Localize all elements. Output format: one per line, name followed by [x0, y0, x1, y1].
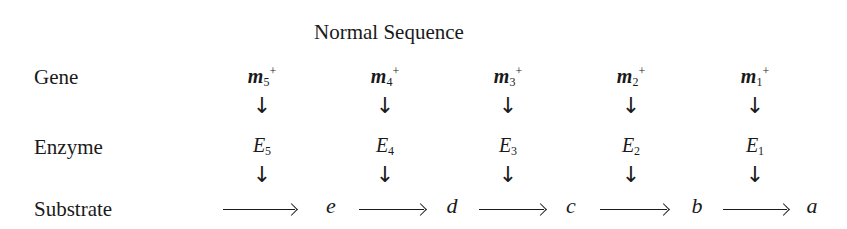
right-arrow-icon	[600, 209, 667, 210]
gene-m2: m2+	[617, 64, 645, 90]
diagram-title: Normal Sequence	[314, 20, 464, 45]
down-arrow-icon: ↓	[622, 164, 640, 186]
gene-m3: m3+	[494, 64, 522, 90]
substrate-c: c	[566, 193, 576, 219]
right-arrow-icon	[223, 209, 295, 210]
right-arrow-icon	[479, 209, 544, 210]
gene-m5: m5+	[248, 64, 276, 90]
down-arrow-icon: ↓	[746, 164, 764, 186]
right-arrow-icon	[359, 209, 424, 210]
enzyme-e2: E2	[622, 134, 640, 159]
substrate-b: b	[692, 193, 703, 219]
substrate-d: d	[447, 193, 458, 219]
gene-m1: m1+	[741, 64, 769, 90]
down-arrow-icon: ↓	[376, 95, 394, 117]
down-arrow-icon: ↓	[253, 164, 271, 186]
enzyme-e1: E1	[746, 134, 764, 159]
substrate-e: e	[326, 193, 336, 219]
substrate-a: a	[807, 193, 818, 219]
down-arrow-icon: ↓	[499, 95, 517, 117]
down-arrow-icon: ↓	[376, 164, 394, 186]
down-arrow-icon: ↓	[622, 95, 640, 117]
row-label-gene: Gene	[34, 65, 78, 90]
enzyme-e5: E5	[253, 134, 271, 159]
enzyme-e4: E4	[376, 134, 394, 159]
row-label-substrate: Substrate	[34, 197, 112, 222]
down-arrow-icon: ↓	[746, 95, 764, 117]
row-label-enzyme: Enzyme	[34, 135, 103, 160]
enzyme-e3: E3	[499, 134, 517, 159]
down-arrow-icon: ↓	[253, 95, 271, 117]
gene-m4: m4+	[371, 64, 399, 90]
right-arrow-icon	[723, 209, 787, 210]
down-arrow-icon: ↓	[499, 164, 517, 186]
